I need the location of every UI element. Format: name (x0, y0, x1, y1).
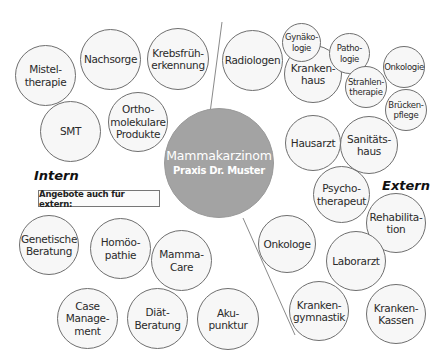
angebote-box: Angebote auch für extern: (38, 190, 160, 207)
node-label: Kranken- gymnastik (293, 299, 345, 324)
node-label: Brücken- pflege (388, 100, 423, 120)
node-label: Ortho- molekulare Produkte (110, 103, 165, 140)
node-label: Krebsfrüh- erkennung (151, 47, 205, 72)
node-mamma-care: Mamma- Care (151, 230, 212, 291)
node-diaet-beratung: Diät- Beratung (127, 288, 188, 349)
node-label: Kranken- haus (291, 62, 336, 87)
node-label: Gynäko- logie (285, 32, 318, 52)
node-sanitaetshaus: Sanitäts- haus (340, 116, 398, 174)
center-node-mammakarzinom: Mammakarzinom Praxis Dr. Muster (164, 108, 274, 218)
node-brueckenpflege: Brücken- pflege (385, 89, 427, 131)
node-label: Onkologie (384, 62, 424, 72)
node-orthomolekulare-produkte: Ortho- molekulare Produkte (108, 92, 168, 152)
node-label: Kranken- Kassen (374, 302, 419, 327)
node-label: Strahlen- therapie (348, 77, 384, 97)
node-strahlentherapie: Strahlen- therapie (345, 66, 387, 108)
node-akupunktur: Aku- punktur (197, 288, 259, 350)
center-subtitle: Praxis Dr. Muster (173, 165, 265, 177)
node-label: Nachsorge (84, 53, 137, 65)
node-genetische-beratung: Genetische Beratung (19, 215, 79, 275)
node-misteltherapie: Mistel- therapie (15, 45, 76, 106)
node-psychotherapeut: Psycho- therapeut (313, 166, 370, 223)
node-onkologe: Onkologe (258, 215, 316, 273)
node-gynaekologie: Gynäko- logie (282, 23, 321, 62)
node-krankengymnastik: Kranken- gymnastik (289, 281, 349, 341)
node-label: Psycho- therapeut (317, 182, 366, 207)
node-label: Genetische Beratung (21, 233, 77, 258)
node-label: Case Manage- ment (66, 300, 109, 337)
node-label: Sanitäts- haus (347, 133, 391, 158)
section-label-intern: Intern (34, 168, 79, 183)
node-krankenkassen: Kranken- Kassen (366, 284, 426, 344)
node-nachsorge: Nachsorge (80, 29, 141, 90)
node-krebsfrueherkennung: Krebsfrüh- erkennung (147, 28, 209, 90)
section-label-extern: Extern (382, 178, 430, 193)
node-case-management: Case Manage- ment (57, 288, 118, 349)
node-laborarzt: Laborarzt (326, 231, 386, 291)
node-label: Mamma- Care (159, 248, 203, 273)
node-label: Radiologen (225, 54, 281, 66)
node-label: Mistel- therapie (25, 63, 67, 88)
node-label: SMT (60, 125, 81, 137)
node-label: Homöo- pathie (101, 236, 141, 261)
node-label: Patho- logie (337, 43, 362, 63)
node-radiologen: Radiologen (222, 30, 283, 91)
node-homoeopathie: Homöo- pathie (90, 218, 151, 279)
node-label: Onkologe (263, 238, 310, 250)
node-label: Rehabilita- tion (370, 211, 423, 236)
node-label: Diät- Beratung (134, 306, 180, 331)
diagram: Mistel- therapie Nachsorge Krebsfrüh- er… (0, 0, 445, 351)
node-label: Aku- punktur (208, 307, 247, 332)
node-onkologie: Onkologie (383, 46, 425, 88)
center-title: Mammakarzinom (166, 149, 271, 164)
node-smt: SMT (40, 101, 101, 162)
node-hausarzt: Hausarzt (285, 115, 341, 171)
node-label: Hausarzt (291, 137, 335, 149)
node-label: Laborarzt (332, 255, 379, 267)
